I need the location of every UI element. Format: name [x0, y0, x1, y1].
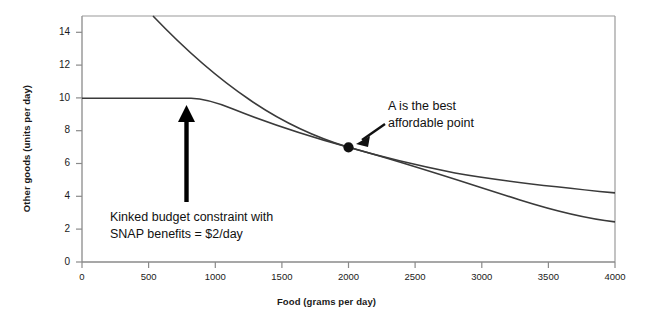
- kink-annotation: Kinked budget constraint with SNAP benef…: [110, 209, 273, 243]
- kink-arrow: [178, 105, 195, 202]
- chart-figure: 14 12 10 8 6 4 2 0 0 500 1000 1500 2000 …: [0, 0, 653, 325]
- y-tick-label-12: 12: [44, 59, 70, 70]
- x-tick-marks: [82, 262, 615, 268]
- budget-constraint-curve: [82, 98, 615, 222]
- y-tick-label-6: 6: [44, 157, 70, 168]
- x-tick-label-4000: 4000: [595, 271, 635, 282]
- point-a-arrow: [356, 124, 385, 147]
- point-a-annotation: A is the best affordable point: [388, 98, 474, 132]
- x-tick-label-2000: 2000: [329, 271, 369, 282]
- x-tick-label-1000: 1000: [195, 271, 235, 282]
- y-tick-marks: [76, 32, 82, 262]
- y-tick-label-0: 0: [44, 256, 70, 267]
- y-axis-title: Other goods (units per day): [21, 49, 32, 249]
- x-tick-label-0: 0: [62, 271, 102, 282]
- x-tick-label-3000: 3000: [462, 271, 502, 282]
- y-tick-label-4: 4: [44, 190, 70, 201]
- y-tick-label-14: 14: [44, 26, 70, 37]
- x-tick-label-1500: 1500: [262, 271, 302, 282]
- x-tick-label-500: 500: [129, 271, 169, 282]
- y-tick-label-2: 2: [44, 223, 70, 234]
- point-a-marker: [343, 142, 353, 152]
- x-tick-label-2500: 2500: [395, 271, 435, 282]
- y-tick-label-10: 10: [44, 92, 70, 103]
- x-tick-label-3500: 3500: [528, 271, 568, 282]
- y-tick-label-8: 8: [44, 124, 70, 135]
- x-axis-title: Food (grams per day): [0, 296, 653, 307]
